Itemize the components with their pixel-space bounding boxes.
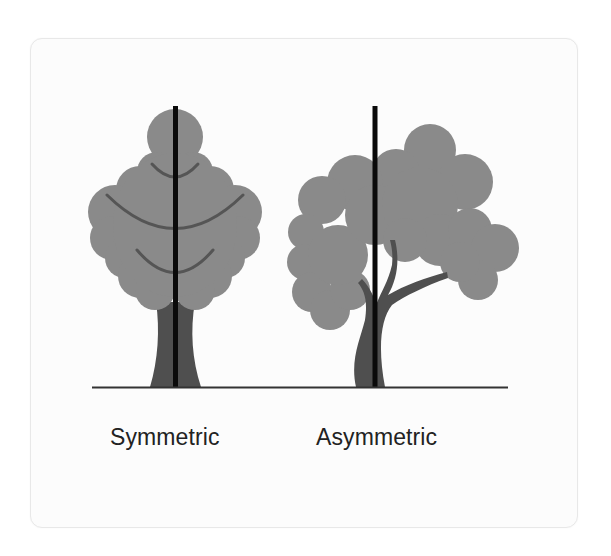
asymmetric-label: Asymmetric bbox=[316, 424, 437, 451]
asymmetric-tree bbox=[287, 106, 519, 387]
symmetric-label: Symmetric bbox=[110, 424, 220, 451]
asymmetric-crown bbox=[287, 124, 519, 330]
tree-symmetry-illustration bbox=[0, 0, 611, 556]
symmetric-tree bbox=[88, 106, 262, 387]
